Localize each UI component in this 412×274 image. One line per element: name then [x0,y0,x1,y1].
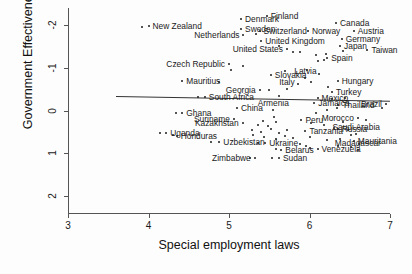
y-tick-label--2: 2 [47,188,58,204]
data-label-peru: Peru [305,116,323,124]
x-tick-4 [149,214,150,218]
x-tick-label-6: 6 [307,220,313,231]
x-tick-label-7: 7 [387,220,393,231]
x-tick-6 [310,214,311,218]
y-tick-label--1: 1 [47,145,58,161]
data-label-japan: Japan [344,42,367,50]
data-label-honduras: Honduras [181,132,217,140]
x-tick-label-3: 3 [65,220,71,231]
data-label-norway: Norway [312,27,340,35]
data-label-mauritius: Mauritius [186,77,220,85]
data-labels-layer: New ZealandDenmarkFinlandSwedenNetherlan… [68,8,390,213]
y-axis-title: Government Effectiveness [21,0,35,146]
x-tick-label-5: 5 [226,220,232,231]
data-label-south-africa: South Africa [209,93,254,101]
data-label-netherlands: Netherlands [194,31,239,39]
data-label-kazakhstan: Kazakhstan [195,119,239,127]
data-label-czech-republic: Czech Republic [166,60,225,68]
data-label-switzerland: Switzerland [264,27,307,35]
data-label-latvia: Latvia [294,67,316,75]
y-tick-label-2: -2 [47,17,58,33]
data-label-armenia: Armenia [258,98,289,106]
data-label-spain: Spain [331,53,352,61]
data-label-hungary: Hungary [342,76,374,84]
data-label-brazil: Brazil [361,99,382,107]
data-label-italy: Italy [279,78,294,86]
y-tick-label-0: 0 [47,103,58,119]
data-label-united-states: United States [233,45,283,53]
x-tick-7 [390,214,391,218]
data-label-uzbekistan: Uzbekistan [223,138,264,146]
x-tick-3 [68,214,69,218]
data-label-zimbabwe: Zimbabwe [212,154,251,162]
x-axis-title: Special employment laws [68,238,390,252]
data-label-taiwan: Taiwan [371,46,397,54]
data-label-finland: Finland [271,11,298,19]
x-tick-5 [229,214,230,218]
data-label-tanzania: Tanzania [309,126,343,134]
data-label-sudan: Sudan [283,154,307,162]
plot-area: New ZealandDenmarkFinlandSwedenNetherlan… [68,8,390,213]
data-label-madagascar: Madagascar [335,139,381,147]
scatter-plot-figure: 34567 210-1-2 New ZealandDenmarkFinlandS… [0,0,412,274]
y-tick-label-1: -1 [47,60,58,76]
x-tick-label-4: 4 [146,220,152,231]
